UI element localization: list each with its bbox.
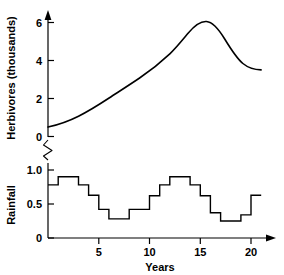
herbivores-ytick-label-2: 2	[36, 93, 42, 105]
xtick-label-5: 5	[96, 246, 102, 258]
rainfall-panel: 1.0 0.5 0 Rainfall 5 10 15 20 Years	[5, 163, 276, 273]
rainfall-step-curve	[48, 177, 261, 221]
herbivores-ytick-label-6: 6	[36, 17, 42, 29]
rainfall-ytick-label-0: 0	[36, 232, 42, 244]
rainfall-ytick-label-1.0: 1.0	[27, 164, 42, 176]
x-axis-arrow-icon	[266, 235, 276, 242]
herbivores-ytick-label-4: 4	[36, 55, 43, 67]
axis-break-icon	[44, 140, 53, 160]
chart-figure: 6 4 2 0 Herbivores (thousands) 1.0 0.5 0	[0, 0, 284, 275]
rainfall-ytick-label-0.5: 0.5	[27, 198, 42, 210]
herbivores-curve	[48, 21, 261, 127]
axis-break-zigzag	[44, 140, 53, 160]
herbivores-axis-title: Herbivores (thousands)	[5, 16, 17, 140]
x-axis-title: Years	[145, 261, 174, 273]
xtick-label-10: 10	[143, 246, 155, 258]
chart-canvas: 6 4 2 0 Herbivores (thousands) 1.0 0.5 0	[0, 0, 284, 275]
xtick-label-20: 20	[245, 246, 257, 258]
herbivores-ytick-label-0: 0	[36, 131, 42, 143]
herbivores-y-axis-arrow-icon	[45, 10, 52, 20]
rainfall-axis-title: Rainfall	[5, 185, 17, 225]
xtick-label-15: 15	[194, 246, 206, 258]
herbivores-panel: 6 4 2 0 Herbivores (thousands)	[5, 10, 261, 143]
